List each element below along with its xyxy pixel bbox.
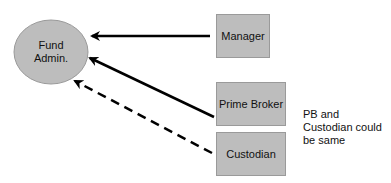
prime-broker-label: Prime Broker: [217, 83, 285, 125]
note-text: PB and Custodian could be same: [303, 108, 382, 147]
custodian-label: Custodian: [217, 133, 285, 175]
arrow-prime-broker-to-fund-admin: [90, 58, 214, 117]
manager-label: Manager: [217, 15, 269, 57]
manager-box: Manager: [216, 14, 270, 58]
custodian-box: Custodian: [216, 132, 286, 176]
arrow-custodian-to-fund-admin: [75, 81, 212, 153]
prime-broker-box: Prime Broker: [216, 82, 286, 126]
fund-admin-label: Fund Admin.: [14, 20, 88, 84]
